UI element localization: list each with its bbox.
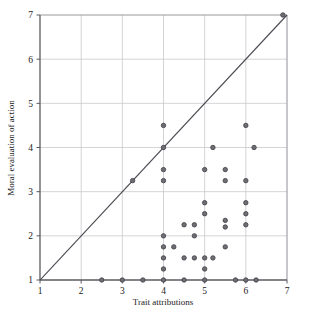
data-point xyxy=(244,278,248,282)
scatter-plot-figure: 1234567 1234567 Trait attributions Moral… xyxy=(0,0,314,319)
data-point xyxy=(202,267,206,271)
data-point xyxy=(202,278,206,282)
data-point xyxy=(130,178,134,182)
data-point xyxy=(161,145,165,149)
x-tick-label: 7 xyxy=(285,286,290,296)
y-axis-title: Moral evaluation of action xyxy=(6,100,16,196)
y-tick-label: 3 xyxy=(28,187,33,197)
x-tick-label: 2 xyxy=(79,286,84,296)
data-point xyxy=(254,278,258,282)
x-tick-label: 5 xyxy=(202,286,207,296)
data-point xyxy=(281,13,285,17)
data-point xyxy=(161,256,165,260)
data-point xyxy=(244,212,248,216)
data-point xyxy=(202,167,206,171)
data-point xyxy=(161,245,165,249)
data-point xyxy=(223,225,227,229)
y-tick-label: 6 xyxy=(28,55,33,65)
data-point xyxy=(211,145,215,149)
data-point xyxy=(161,167,165,171)
data-point xyxy=(244,223,248,227)
x-tick-label: 4 xyxy=(161,286,166,296)
y-tick-label: 1 xyxy=(28,275,33,285)
data-point xyxy=(223,245,227,249)
data-point xyxy=(182,256,186,260)
y-tick-label: 5 xyxy=(28,99,33,109)
data-point xyxy=(244,201,248,205)
data-point xyxy=(244,123,248,127)
data-point xyxy=(252,145,256,149)
data-point xyxy=(161,267,165,271)
data-point xyxy=(161,278,165,282)
y-tick-label: 4 xyxy=(28,143,33,153)
data-point xyxy=(100,278,104,282)
data-point xyxy=(244,178,248,182)
data-point xyxy=(223,218,227,222)
x-axis-title: Trait attributions xyxy=(133,297,194,307)
data-point xyxy=(120,278,124,282)
data-point xyxy=(223,178,227,182)
data-point xyxy=(233,278,237,282)
data-point xyxy=(161,123,165,127)
data-point xyxy=(202,212,206,216)
data-point xyxy=(202,256,206,260)
x-tick-label: 6 xyxy=(243,286,248,296)
plot-canvas: 1234567 1234567 Trait attributions Moral… xyxy=(0,0,314,319)
data-point xyxy=(161,234,165,238)
data-point xyxy=(172,245,176,249)
data-point xyxy=(182,278,186,282)
data-point xyxy=(192,256,196,260)
y-tick-label: 7 xyxy=(28,10,33,20)
y-tick-label: 2 xyxy=(28,231,33,241)
data-point xyxy=(211,256,215,260)
data-point xyxy=(192,234,196,238)
x-tick-labels: 1234567 xyxy=(38,286,290,296)
data-point xyxy=(202,201,206,205)
data-point xyxy=(223,167,227,171)
data-point xyxy=(182,223,186,227)
data-point xyxy=(141,278,145,282)
x-tick-label: 3 xyxy=(120,286,125,296)
y-tick-labels: 1234567 xyxy=(28,10,33,285)
x-tick-label: 1 xyxy=(38,286,43,296)
data-point xyxy=(161,178,165,182)
data-point xyxy=(192,223,196,227)
